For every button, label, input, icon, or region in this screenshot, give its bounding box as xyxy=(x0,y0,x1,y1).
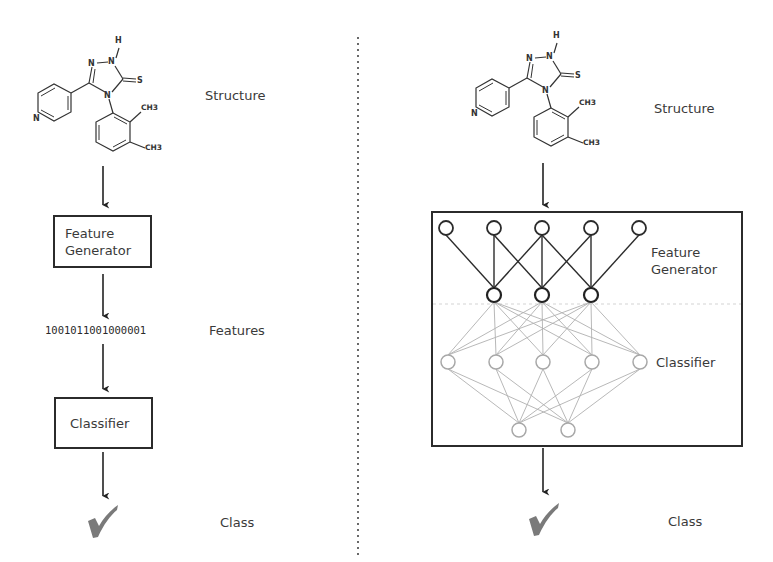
feature-generator-label-line2: Generator xyxy=(65,242,131,259)
feature-layer xyxy=(487,288,598,302)
hidden-node xyxy=(536,355,550,369)
output-node xyxy=(512,423,526,437)
atom-label-n: N xyxy=(471,109,478,118)
input-node xyxy=(584,221,598,235)
class-label: Class xyxy=(668,514,702,529)
atom-label-ch3: CH3 xyxy=(145,143,162,152)
diagram-canvas xyxy=(0,0,773,562)
feature-generator-label-line1: Feature xyxy=(65,225,114,242)
feature-node xyxy=(487,288,501,302)
feature-generator-box: Feature Generator xyxy=(53,215,152,268)
atom-label-ch3: CH3 xyxy=(583,138,600,147)
input-node xyxy=(487,221,501,235)
output-node xyxy=(561,423,575,437)
feature-node xyxy=(535,288,549,302)
atom-label-h: H xyxy=(553,31,560,40)
atom-label-s: S xyxy=(575,71,581,80)
output-layer xyxy=(512,423,575,437)
input-node xyxy=(439,221,453,235)
input-layer xyxy=(439,221,646,235)
atom-label-n: N xyxy=(88,59,95,68)
features-label: Features xyxy=(209,323,265,338)
atom-label-h: H xyxy=(115,36,122,45)
classifier-label: Classifier xyxy=(70,415,129,432)
atom-label-n: N xyxy=(542,86,549,95)
checkmark-icon xyxy=(88,505,118,538)
checkmark-icon xyxy=(529,503,559,536)
input-node xyxy=(535,221,549,235)
atom-label-n: N xyxy=(33,114,40,123)
input-node xyxy=(632,221,646,235)
feature-generator-edges xyxy=(446,235,639,288)
hidden-layer xyxy=(441,355,647,369)
classifier-box: Classifier xyxy=(54,397,153,449)
classifier-label: Classifier xyxy=(656,355,715,370)
atom-label-ch3: CH3 xyxy=(141,103,158,112)
hidden-node xyxy=(585,355,599,369)
hidden-node xyxy=(633,355,647,369)
atom-label-n: N xyxy=(104,91,111,100)
hidden-node xyxy=(489,355,503,369)
feature-generator-label-line1: Feature xyxy=(651,245,700,260)
atom-label-n: N xyxy=(108,57,115,66)
atom-label-n: N xyxy=(526,54,533,63)
atom-label-n: N xyxy=(546,52,553,61)
feature-generator-label-line2: Generator xyxy=(651,262,717,277)
feature-bits: 1001011001000001 xyxy=(45,324,146,336)
atom-label-ch3: CH3 xyxy=(579,98,596,107)
class-label: Class xyxy=(220,515,254,530)
hidden-node xyxy=(441,355,455,369)
feature-node xyxy=(584,288,598,302)
atom-label-s: S xyxy=(137,76,143,85)
structure-label: Structure xyxy=(654,101,714,116)
structure-label: Structure xyxy=(205,88,265,103)
